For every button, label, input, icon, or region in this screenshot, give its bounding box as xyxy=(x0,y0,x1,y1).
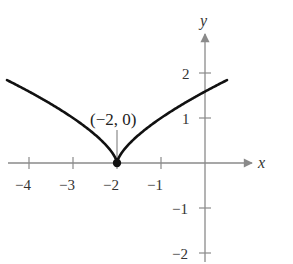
svg-text:−4: −4 xyxy=(15,177,31,193)
svg-text:1: 1 xyxy=(182,111,190,127)
svg-text:−1: −1 xyxy=(172,201,188,217)
cusp-point xyxy=(113,159,121,167)
svg-text:2: 2 xyxy=(182,66,190,82)
x-axis-label: x xyxy=(257,154,265,171)
svg-text:−3: −3 xyxy=(59,177,75,193)
svg-text:−2: −2 xyxy=(103,177,119,193)
function-graph: x y −4 −3 −2 −1 2 1 −1 −2 (−2, 0) xyxy=(0,0,293,264)
cusp-point-label: (−2, 0) xyxy=(90,110,136,129)
x-tick-labels: −4 −3 −2 −1 xyxy=(15,177,163,193)
y-tick-labels: 2 1 −1 −2 xyxy=(172,66,190,262)
svg-text:−1: −1 xyxy=(147,177,163,193)
y-axis-label: y xyxy=(198,12,208,30)
svg-text:−2: −2 xyxy=(172,246,188,262)
